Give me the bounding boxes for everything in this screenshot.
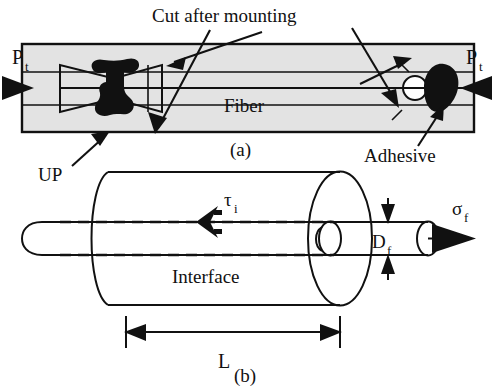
cylinder-left-arc <box>92 172 109 305</box>
length-label: L <box>218 350 230 372</box>
interface-label: Interface <box>172 266 240 287</box>
panel-a: P t P t Fiber Cut after mounting <box>2 5 492 185</box>
adhesive-label: Adhesive <box>364 145 436 166</box>
figure-root: P t P t Fiber Cut after mounting <box>0 0 497 390</box>
panel-b-caption: (b) <box>234 365 256 387</box>
up-label: UP <box>38 164 62 185</box>
shear-stress-sublabel: i <box>234 201 238 216</box>
technical-diagram-svg: P t P t Fiber Cut after mounting <box>0 0 497 390</box>
panel-b: τ i Interface D f σ f L (b) <box>22 172 476 388</box>
up-leader <box>72 131 110 166</box>
load-right-label: P <box>466 46 477 68</box>
panel-a-caption: (a) <box>230 139 251 161</box>
load-left-sublabel: t <box>25 59 29 74</box>
length-dimension-icon <box>124 316 342 348</box>
fiber-stress-arrow-icon <box>428 224 476 253</box>
shear-stress-label: τ <box>224 189 232 210</box>
fiber-label: Fiber <box>224 95 265 116</box>
fiber-left-cap <box>22 222 42 255</box>
diameter-label: D <box>372 231 386 252</box>
load-right-sublabel: t <box>479 59 483 74</box>
load-left-label: P <box>12 46 23 68</box>
diameter-sublabel: f <box>387 243 392 258</box>
fiber-stress-sublabel: f <box>464 210 469 225</box>
fiber-stress-label: σ <box>452 198 462 219</box>
cut-after-mounting-label: Cut after mounting <box>152 5 297 26</box>
